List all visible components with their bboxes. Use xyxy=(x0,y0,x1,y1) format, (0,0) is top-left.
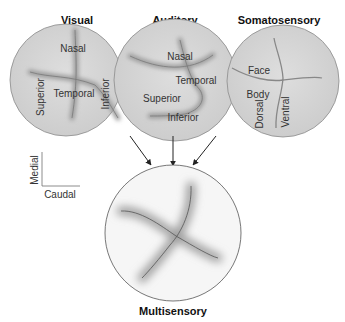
auditory-label-temporal: Temporal xyxy=(175,75,216,86)
axis-label-caudal: Caudal xyxy=(44,189,76,200)
arrow-somatosensory xyxy=(193,136,216,165)
multisensory-map xyxy=(105,165,241,301)
auditory-map: Nasal Temporal Superior Inferior xyxy=(114,19,236,141)
axis-label-medial: Medial xyxy=(29,155,40,184)
orientation-axes: Medial Caudal xyxy=(29,152,80,200)
somatosensory-label-dorsal: Dorsal xyxy=(254,100,265,129)
visual-label-superior: Superior xyxy=(35,77,46,115)
visual-label-nasal: Nasal xyxy=(60,43,86,54)
somatosensory-title: Somatosensory xyxy=(238,14,321,26)
visual-label-temporal: Temporal xyxy=(53,88,94,99)
visual-label-inferior: Inferior xyxy=(100,78,111,110)
arrow-visual xyxy=(130,136,151,165)
multisensory-title: Multisensory xyxy=(139,305,208,317)
diagram-canvas: Visual Auditory Somatosensory Nasal Temp… xyxy=(0,0,345,322)
somatosensory-label-body: Body xyxy=(247,89,270,100)
convergence-arrows xyxy=(130,136,216,166)
somatosensory-map: Face Body Dorsal Ventral xyxy=(227,25,339,137)
somatosensory-label-ventral: Ventral xyxy=(280,96,291,127)
visual-map: Nasal Temporal Superior Inferior xyxy=(10,24,122,136)
auditory-label-nasal: Nasal xyxy=(167,51,193,62)
somatosensory-label-face: Face xyxy=(248,65,271,76)
auditory-label-inferior: Inferior xyxy=(167,112,199,123)
auditory-label-superior: Superior xyxy=(143,93,181,104)
